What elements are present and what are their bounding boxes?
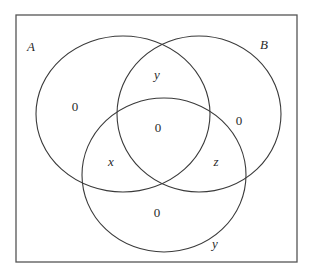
region-A-and-B-and-C-value: 0 xyxy=(155,120,162,135)
set-B-label: B xyxy=(260,37,268,52)
set-C-label: y xyxy=(210,236,218,251)
region-A-only-value: 0 xyxy=(72,99,79,114)
region-B-only-value: 0 xyxy=(236,113,243,128)
region-A-and-C-only-value: x xyxy=(107,154,114,169)
region-A-and-B-only-value: y xyxy=(152,67,160,82)
region-C-only-value: 0 xyxy=(154,205,161,220)
set-A-circle xyxy=(36,36,210,192)
set-A-label: A xyxy=(26,39,35,54)
set-C-circle xyxy=(82,98,246,252)
region-B-and-C-only-value: z xyxy=(212,154,218,169)
set-B-circle xyxy=(117,36,281,192)
venn-diagram: ABy 00y0xz0 xyxy=(0,0,313,279)
universal-set-frame xyxy=(16,15,297,262)
